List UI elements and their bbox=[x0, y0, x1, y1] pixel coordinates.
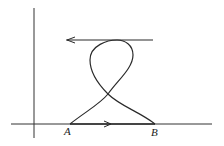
path-diagram: A B bbox=[0, 0, 224, 146]
point-label-a: A bbox=[63, 125, 71, 137]
figure-eight-loop bbox=[70, 40, 155, 124]
diagram-canvas: A B bbox=[0, 0, 224, 146]
point-label-b: B bbox=[151, 126, 158, 138]
